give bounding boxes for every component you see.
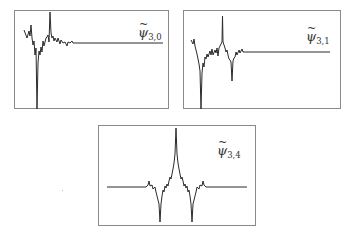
stray-mark <box>62 190 63 191</box>
panel-psi-3-4: ~ψ3,4 <box>98 125 256 226</box>
label-subscript: 3,1 <box>316 36 330 46</box>
label-subscript: 3,0 <box>148 32 162 42</box>
tilde-mark: ~ <box>307 23 316 34</box>
panel-psi-3-0: ~ψ3,0 <box>14 10 169 109</box>
panel-label-psi-3-0: ~ψ3,0 <box>138 26 162 42</box>
waveform-psi-3-1 <box>184 11 342 110</box>
tilde-mark: ~ <box>218 137 227 148</box>
panel-psi-3-1: ~ψ3,1 <box>183 10 341 109</box>
panel-label-psi-3-4: ~ψ3,4 <box>217 144 241 160</box>
tilde-mark: ~ <box>139 19 148 30</box>
waveform-psi-3-4 <box>99 126 257 227</box>
label-subscript: 3,4 <box>227 150 241 160</box>
panel-label-psi-3-1: ~ψ3,1 <box>306 30 330 46</box>
